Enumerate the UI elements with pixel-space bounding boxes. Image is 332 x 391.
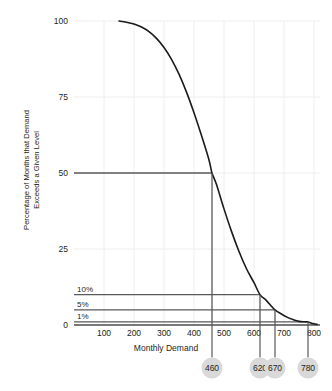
x-tick-label: 100 [97, 328, 111, 338]
percent-reference-label: 1% [77, 312, 89, 321]
percent-reference-label: 5% [77, 300, 89, 309]
x-tick-label: 400 [187, 328, 201, 338]
callout-label: 460 [205, 363, 219, 373]
callout-label: 670 [268, 363, 282, 373]
x-tick-label: 300 [157, 328, 171, 338]
x-tick-label: 200 [127, 328, 141, 338]
y-tick-label: 50 [59, 168, 69, 178]
x-tick-label: 800 [307, 328, 321, 338]
y-tick-label: 25 [59, 244, 69, 254]
x-tick-label: 600 [247, 328, 261, 338]
x-tick-label: 500 [217, 328, 231, 338]
exceedance-chart: 100200300400500600700800 0255075100 10%5… [0, 0, 332, 391]
x-tick-label: 700 [277, 328, 291, 338]
x-axis-title: Monthly Demand [134, 343, 199, 353]
y-axis-title-line1: Percentage of Months that Demand [22, 110, 31, 230]
y-axis-title-line2: Exceeds a Given Level [32, 131, 41, 209]
chart-canvas: 100200300400500600700800 0255075100 10%5… [0, 0, 332, 391]
y-tick-label: 0 [63, 320, 68, 330]
callout-label: 780 [301, 363, 315, 373]
y-tick-label: 100 [54, 16, 68, 26]
percent-reference-label: 10% [77, 285, 93, 294]
y-tick-label: 75 [59, 92, 69, 102]
